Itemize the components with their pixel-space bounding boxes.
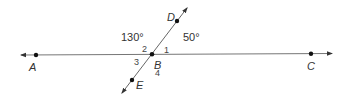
diagram-lines [0,0,351,100]
label-point-a: A [29,62,36,73]
line-ac [21,54,332,56]
point-e [130,78,134,82]
point-d [175,19,179,23]
angle-number-2: 2 [142,45,147,54]
point-c [309,52,313,56]
geometry-diagram: A B C D E 1 2 3 4 130° 50° [0,0,351,100]
angle-measure-50: 50° [183,32,200,43]
label-point-c: C [307,61,315,72]
angle-number-4: 4 [155,69,160,78]
label-point-e: E [136,80,143,91]
label-point-d: D [167,12,175,23]
point-a [34,53,38,57]
angle-number-1: 1 [164,46,169,55]
angle-measure-130: 130° [121,32,144,43]
point-b [150,52,155,57]
angle-number-3: 3 [134,58,139,67]
